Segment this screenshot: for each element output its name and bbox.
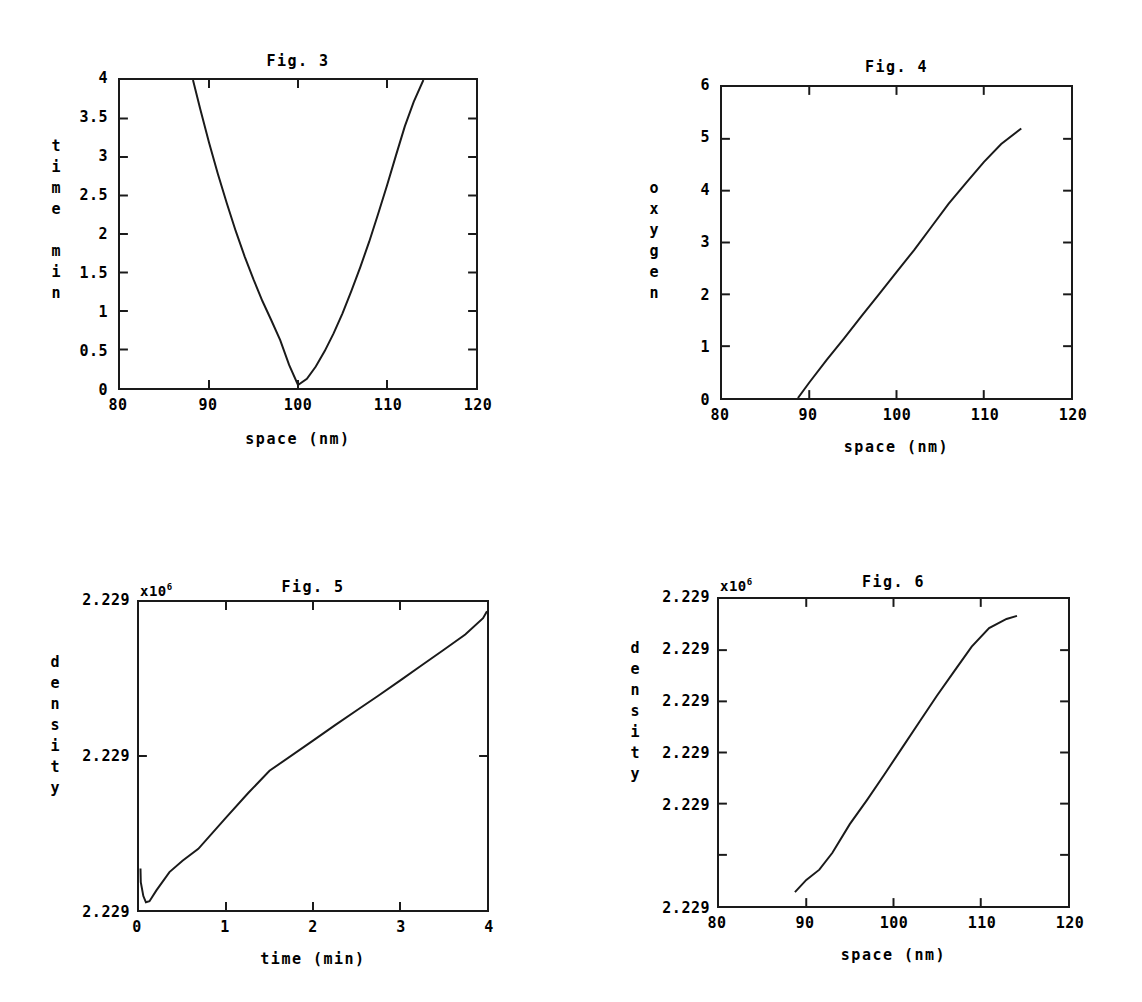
fig4-xtick-100: 100 [867, 406, 927, 424]
fig4-x-tickmarks [809, 87, 984, 398]
fig3-xlabel: space (nm) [118, 430, 478, 448]
fig6-data-curve [795, 616, 1017, 892]
fig6-ylabel: densitydensity [626, 638, 644, 785]
fig6-x-tickmarks [806, 599, 981, 906]
fig6-xtick-100: 100 [864, 914, 924, 932]
fig4-ytick-4: 4 [676, 181, 710, 199]
fig4-plot-area [720, 85, 1073, 400]
fig4-ytick-2: 2 [676, 286, 710, 304]
fig3-plot-svg [120, 80, 476, 388]
fig6-ytick-4: 2.229 [632, 640, 710, 658]
fig4-xtick-110: 110 [955, 406, 1015, 424]
fig5-plot-area [137, 600, 489, 912]
fig3-ytick-3.5: 3.5 [58, 108, 108, 126]
fig6-plot-area [717, 597, 1070, 908]
fig4-xtick-80: 80 [695, 406, 745, 424]
fig3-ytick-1: 1 [68, 303, 108, 321]
figure-fig4: Fig. 4 oxygenoxygen 6 5 4 3 2 1 0 [580, 0, 1142, 480]
fig4-data-curve [798, 128, 1021, 398]
fig4-ytick-5: 5 [676, 128, 710, 146]
fig4-plot-svg [722, 87, 1071, 398]
fig5-xlabel: time (min) [137, 950, 489, 968]
fig3-ytick-4: 4 [68, 69, 108, 87]
fig6-ytick-3: 2.229 [632, 692, 710, 710]
fig6-ytick-5: 2.229 [632, 588, 710, 606]
fig3-plot-area [118, 78, 478, 390]
fig3-ytick-2: 2 [68, 225, 108, 243]
fig3-y-tickmarks [120, 119, 476, 350]
fig5-ylabel: densitydensity [46, 652, 64, 799]
fig5-xtick-0: 0 [120, 918, 154, 936]
fig3-xtick-110: 110 [358, 396, 418, 414]
fig4-ytick-1: 1 [676, 338, 710, 356]
fig3-ytick-1.5: 1.5 [58, 264, 108, 282]
figure-fig3: Fig. 3 time mintime min 4 3.5 3 2.5 2 1.… [0, 0, 560, 480]
fig6-xtick-90: 90 [780, 914, 830, 932]
fig6-plot-svg [719, 599, 1068, 906]
fig5-x-tickmarks [226, 602, 400, 910]
fig4-xtick-120: 120 [1043, 406, 1103, 424]
fig6-xtick-110: 110 [952, 914, 1012, 932]
fig3-x-tickmarks [209, 80, 387, 388]
fig3-ytick-2.5: 2.5 [58, 186, 108, 204]
fig5-title: Fig. 5 [137, 578, 489, 596]
figure-fig6: x106 Fig. 6 densitydensity 2.229 2.229 2… [580, 520, 1142, 1002]
fig4-title: Fig. 4 [720, 58, 1073, 76]
fig5-ytick-bottom: 2.229 [52, 903, 130, 921]
fig5-xtick-3: 3 [384, 918, 418, 936]
fig6-xtick-120: 120 [1040, 914, 1100, 932]
fig3-data-curve [193, 80, 423, 385]
fig6-xlabel: space (nm) [717, 946, 1070, 964]
fig6-ytick-1: 2.229 [632, 796, 710, 814]
fig5-ytick-middle: 2.229 [52, 747, 130, 765]
fig6-ytick-2: 2.229 [632, 744, 710, 762]
fig5-xtick-4: 4 [472, 918, 506, 936]
fig3-xtick-80: 80 [93, 396, 143, 414]
fig4-ytick-6: 6 [676, 76, 710, 94]
fig6-xtick-80: 80 [692, 914, 742, 932]
fig3-xtick-90: 90 [183, 396, 233, 414]
fig4-y-tickmarks [722, 139, 1071, 346]
fig6-title: Fig. 6 [717, 573, 1070, 591]
fig5-xtick-2: 2 [296, 918, 330, 936]
fig4-xtick-90: 90 [783, 406, 833, 424]
fig6-y-tickmarks [719, 650, 1068, 855]
fig4-ytick-3: 3 [676, 233, 710, 251]
fig3-title: Fig. 3 [118, 52, 478, 70]
fig3-ytick-3: 3 [68, 147, 108, 165]
fig3-xtick-100: 100 [268, 396, 328, 414]
fig5-plot-svg [139, 602, 487, 910]
fig4-xlabel: space (nm) [720, 438, 1073, 456]
fig5-ytick-top: 2.229 [52, 591, 130, 609]
fig3-xtick-120: 120 [448, 396, 508, 414]
fig4-ylabel: oxygenoxygen [644, 178, 664, 304]
fig5-data-curve [140, 611, 487, 902]
fig3-ytick-0.5: 0.5 [58, 342, 108, 360]
figure-fig5: x106 Fig. 5 densitydensity 2.229 2.229 2… [0, 520, 560, 1002]
fig5-xtick-1: 1 [208, 918, 242, 936]
